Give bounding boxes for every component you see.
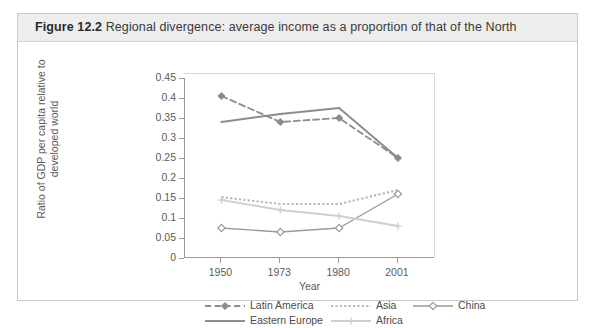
y-axis-tick-label: 0.2 — [136, 171, 176, 183]
y-axis-tick-label: 0.15 — [136, 191, 176, 203]
legend-swatch — [204, 298, 246, 313]
y-axis-tick-label: 0 — [136, 251, 176, 263]
chart-area: Ratio of GDP per capita relative to deve… — [18, 42, 579, 301]
legend-row: Latin AmericaAsiaChina — [204, 298, 504, 313]
legend-swatch — [204, 313, 246, 328]
y-axis-tick-label: 0.25 — [136, 151, 176, 163]
x-axis-tick-label: 2001 — [367, 266, 427, 278]
series-line — [221, 108, 397, 158]
y-axis-tick-labels: 00.050.10.150.20.250.30.350.40.45 — [128, 42, 176, 301]
y-axis-label: Ratio of GDP per capita relative to deve… — [35, 49, 61, 229]
y-axis-tick-label: 0.1 — [136, 211, 176, 223]
x-axis-tick-mark — [220, 258, 221, 263]
legend-label: China — [458, 299, 485, 311]
figure-container: Figure 12.2 Regional divergence: average… — [17, 13, 578, 301]
x-axis-tick-label: 1950 — [190, 266, 250, 278]
legend-swatch — [330, 298, 372, 313]
figure-caption: Figure 12.2 Regional divergence: average… — [35, 20, 517, 34]
legend-row: Eastern EuropeAfrica — [204, 313, 504, 328]
figure-number: Figure 12.2 — [35, 20, 102, 34]
series-line — [221, 96, 397, 158]
series-asia — [221, 190, 397, 204]
y-axis-tick-label: 0.4 — [136, 91, 176, 103]
series-eastern-europe — [221, 108, 397, 158]
data-point-marker — [394, 222, 401, 229]
series-africa — [218, 196, 402, 229]
y-axis-tick-mark — [179, 258, 184, 259]
data-point-marker — [218, 92, 225, 99]
x-axis-tick-label: 1980 — [308, 266, 368, 278]
x-axis-tick-label: 1973 — [249, 266, 309, 278]
data-point-marker — [394, 190, 401, 197]
y-axis-tick-label: 0.3 — [136, 131, 176, 143]
legend-swatch — [330, 313, 372, 328]
data-point-marker — [277, 228, 284, 235]
data-point-marker — [221, 302, 228, 309]
data-point-marker — [277, 118, 284, 125]
series-line — [221, 190, 397, 204]
data-point-marker — [336, 224, 343, 231]
data-point-marker — [218, 196, 225, 203]
legend-label: Africa — [376, 314, 403, 326]
data-point-marker — [347, 317, 354, 324]
y-axis-tick-label: 0.45 — [136, 71, 176, 83]
data-point-marker — [277, 206, 284, 213]
legend-swatch — [412, 298, 454, 313]
legend-label: Asia — [376, 299, 396, 311]
x-axis-tick-mark — [338, 258, 339, 263]
data-point-marker — [429, 302, 436, 309]
data-point-marker — [336, 212, 343, 219]
x-axis-tick-mark — [279, 258, 280, 263]
x-axis-tick-mark — [397, 258, 398, 263]
data-point-marker — [218, 224, 225, 231]
legend-label: Eastern Europe — [250, 314, 323, 326]
y-axis-tick-label: 0.05 — [136, 231, 176, 243]
x-axis-label: Year — [184, 280, 435, 292]
series-latin-america — [218, 92, 402, 161]
plot-area — [184, 78, 434, 258]
chart-lines — [185, 78, 435, 258]
figure-caption-text: Regional divergence: average income as a… — [106, 20, 517, 34]
figure-caption-bar: Figure 12.2 Regional divergence: average… — [18, 14, 577, 42]
y-axis-tick-label: 0.35 — [136, 111, 176, 123]
legend-label: Latin America — [250, 299, 314, 311]
